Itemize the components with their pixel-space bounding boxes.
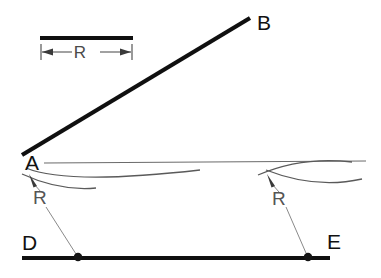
scale-bar-radius-label: R xyxy=(74,43,86,62)
right-arc-center-point xyxy=(304,253,312,261)
point-label-e: E xyxy=(327,230,341,253)
geometric-construction-figure: R R R xyxy=(0,0,381,278)
point-label-b: B xyxy=(257,11,271,34)
right-radius-label: R xyxy=(272,188,286,209)
technical-diagram-canvas: R R R xyxy=(0,0,381,278)
left-arc-center-point xyxy=(74,253,82,261)
figure-background xyxy=(0,0,381,278)
point-label-a: A xyxy=(25,151,39,174)
point-label-d: D xyxy=(22,231,37,254)
left-radius-label: R xyxy=(33,187,47,208)
